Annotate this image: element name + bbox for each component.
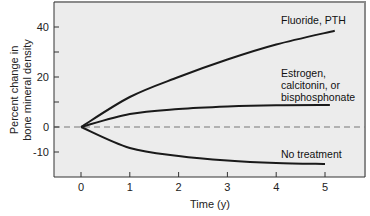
x-axis-label: Time (y) <box>190 198 230 210</box>
x-tick-label: 2 <box>176 181 182 193</box>
y-tick-label: 0 <box>43 121 49 133</box>
x-tick-label: 5 <box>322 181 328 193</box>
series-label-2: No treatment <box>281 148 342 160</box>
x-tick-label: 3 <box>224 181 230 193</box>
y-axis-label: Percent change in bone mineral density <box>8 39 33 141</box>
y-tick-label: 40 <box>37 21 49 33</box>
series-label-1: calcitonin, or <box>281 79 340 91</box>
y-tick-label: 20 <box>37 71 49 83</box>
x-tick-label: 4 <box>273 181 279 193</box>
bone-density-chart: -1002040 012345 Fluoride, PTHEstrogen,ca… <box>0 0 370 216</box>
y-axis-label-line-1: Percent change in <box>8 46 20 135</box>
x-tick-label: 1 <box>127 181 133 193</box>
x-tick-label: 0 <box>78 181 84 193</box>
series-label-0: Fluoride, PTH <box>281 14 346 26</box>
series-label-1: bisphosphonate <box>281 91 355 103</box>
y-axis-label-line-2: bone mineral density <box>21 39 33 141</box>
series-label-1: Estrogen, <box>281 67 326 79</box>
y-tick-label: -10 <box>33 146 49 158</box>
